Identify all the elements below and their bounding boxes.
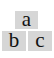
tile-a: a xyxy=(15,11,38,29)
tile-b: b xyxy=(2,31,26,51)
tile-c: c xyxy=(28,31,52,51)
tile-c-label: c xyxy=(35,30,44,51)
tile-a-label: a xyxy=(22,9,31,30)
tile-b-label: b xyxy=(9,30,20,51)
